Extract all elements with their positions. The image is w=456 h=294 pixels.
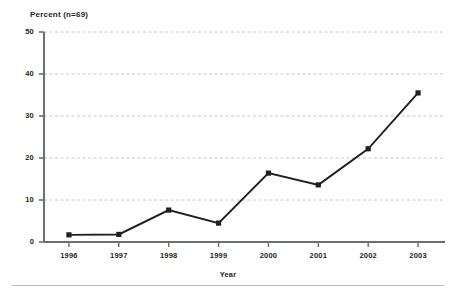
y-tick-label: 0: [12, 237, 34, 246]
y-tick-label: 20: [12, 153, 34, 162]
x-axis-title: Year: [0, 270, 456, 279]
data-series-group: [66, 90, 420, 237]
x-tick-label: 1997: [99, 251, 139, 260]
x-tick-label: 1996: [49, 251, 89, 260]
data-point-marker: [66, 232, 71, 237]
tick-marks-group: [39, 32, 418, 247]
footer-divider: [12, 285, 444, 286]
plot-area: [0, 0, 456, 294]
line-chart-figure: Percent (n=69) 50403020100 1996199719981…: [0, 0, 456, 294]
axis-lines-group: [44, 32, 445, 242]
x-tick-label: 1999: [199, 251, 239, 260]
data-point-marker: [266, 171, 271, 176]
gridlines-group: [44, 32, 445, 200]
x-tick-label: 2002: [348, 251, 388, 260]
data-point-marker: [216, 221, 221, 226]
y-tick-label: 30: [12, 111, 34, 120]
data-point-marker: [415, 90, 420, 95]
y-tick-label: 40: [12, 69, 34, 78]
data-point-marker: [116, 232, 121, 237]
x-tick-label: 1998: [149, 251, 189, 260]
y-tick-label: 10: [12, 195, 34, 204]
x-tick-label: 2003: [398, 251, 438, 260]
data-point-marker: [366, 146, 371, 151]
y-tick-label: 50: [12, 27, 34, 36]
series-line: [69, 93, 418, 235]
data-point-marker: [316, 182, 321, 187]
data-point-marker: [166, 207, 171, 212]
x-tick-label: 2000: [248, 251, 288, 260]
x-tick-label: 2001: [298, 251, 338, 260]
